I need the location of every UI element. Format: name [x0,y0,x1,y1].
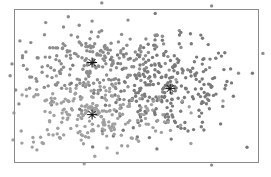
data-point [84,135,87,138]
data-point [150,103,153,106]
data-point [82,142,85,145]
data-point [197,109,200,112]
data-point [209,83,212,86]
data-point [146,109,149,112]
data-point [25,94,28,97]
data-point [169,102,172,105]
data-point [118,112,121,115]
data-point [135,77,138,80]
data-point [224,84,227,87]
data-point [169,59,172,62]
data-point [221,99,224,102]
data-point [73,92,76,95]
data-point [131,137,134,140]
data-point [31,145,34,148]
data-point [101,57,104,60]
data-point [170,137,173,140]
data-point [230,81,233,84]
data-point [138,87,141,90]
data-point [174,78,177,81]
data-point [138,67,141,70]
data-point [103,86,106,89]
data-point [126,18,129,21]
data-point [104,93,107,96]
data-point [65,54,68,57]
data-point [92,82,95,85]
data-point [156,70,159,73]
data-point [169,80,172,83]
data-point [223,87,226,90]
data-point [109,68,112,71]
data-point [84,83,87,86]
data-point [163,120,166,123]
data-point [83,64,86,67]
data-point [136,110,139,113]
data-point [120,134,123,137]
data-point [189,70,192,73]
data-point [87,81,90,84]
data-point [125,44,128,47]
data-point [122,53,125,56]
data-point [140,113,143,116]
data-point [163,95,166,98]
data-point [151,126,154,129]
data-point [68,73,71,76]
data-point [115,66,118,69]
centroid-asterisk-icon [165,84,175,94]
data-point [161,35,164,38]
data-point [93,155,96,158]
data-point [117,40,120,43]
data-point [217,51,220,54]
data-point [90,19,93,22]
data-point [176,72,179,75]
data-point [20,129,23,132]
data-point [207,99,210,102]
data-point [176,61,179,64]
data-point [193,73,196,76]
data-point [202,70,205,73]
data-point [20,141,23,144]
data-point [194,87,197,90]
data-point [122,98,125,101]
data-point [191,95,194,98]
data-point [214,57,217,60]
data-point [89,46,92,49]
data-point [78,108,81,111]
data-point [90,95,93,98]
data-point [84,77,87,80]
data-point [135,57,138,60]
data-point [142,57,145,60]
data-point [51,46,54,49]
data-point [151,108,154,111]
data-point [133,84,136,87]
data-point [76,35,79,38]
data-point [107,52,110,55]
data-point [60,101,63,104]
data-point [58,70,61,73]
data-point [207,93,210,96]
data-point [92,129,95,132]
data-point [112,133,115,136]
data-point [117,95,120,98]
data-point [157,95,160,98]
data-point [103,45,106,48]
data-point [107,78,110,81]
data-point [97,124,100,127]
data-point [121,113,124,116]
data-point [136,119,139,122]
data-point [40,141,43,144]
data-point [147,59,150,62]
data-point [51,133,54,136]
data-point [155,54,158,57]
data-point [205,102,208,105]
data-point [170,76,173,79]
data-point [153,63,156,66]
data-point [120,33,123,36]
data-point [80,104,83,107]
data-point [219,122,222,125]
data-point [179,46,182,49]
data-point [35,148,38,151]
data-point [10,62,13,65]
data-point [116,53,119,56]
data-point [75,124,78,127]
